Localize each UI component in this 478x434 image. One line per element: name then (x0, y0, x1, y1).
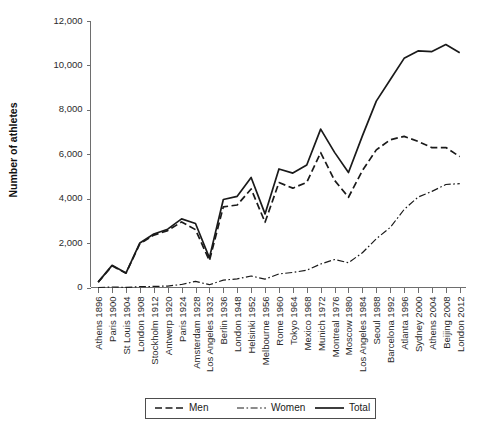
data-series-group (98, 45, 460, 288)
x-tick-label: Barcelona 1992 (385, 297, 396, 364)
x-tick-label: Seoul 1988 (371, 297, 382, 345)
legend-label-men: Men (189, 402, 208, 413)
x-tick-label: Montreal 1976 (330, 297, 341, 358)
legend-label-total: Total (349, 402, 370, 413)
x-tick-label: Sydney 2000 (413, 297, 424, 352)
x-axis-ticks: Athens 1896Paris 1900St Louis 1904London… (93, 288, 466, 373)
x-tick-label: Athens 1896 (93, 297, 104, 350)
x-tick-label: Los Angeles 1932 (204, 297, 215, 373)
y-axis-title-group: Number of athletes (7, 102, 19, 197)
y-tick-label: 8,000 (59, 103, 83, 114)
y-tick-label: 2,000 (59, 237, 83, 248)
series-line-men (98, 136, 460, 282)
x-tick-label: Paris 1924 (177, 297, 188, 342)
x-tick-label: London 1948 (232, 297, 243, 352)
y-tick-label: 4,000 (59, 192, 83, 203)
x-tick-label: London 2012 (455, 297, 466, 352)
x-tick-label: Rome 1960 (274, 297, 285, 346)
series-line-total (98, 45, 460, 283)
x-tick-label: Amsterdam 1928 (191, 297, 202, 369)
x-tick-label: Stockholm 1912 (149, 297, 160, 365)
olympic-athletes-chart: Number of athletes 02,0004,0006,0008,000… (0, 0, 478, 434)
x-tick-label: Athens 2004 (427, 297, 438, 350)
chart-svg: Number of athletes 02,0004,0006,0008,000… (0, 0, 478, 434)
x-tick-label: Moscow 1980 (343, 297, 354, 356)
y-tick-label: 10,000 (53, 59, 82, 70)
y-tick-label: 0 (77, 281, 82, 292)
y-axis-title: Number of athletes (7, 102, 19, 197)
x-tick-label: Antwerp 1920 (163, 297, 174, 356)
x-tick-label: Melbourne 1956 (260, 297, 271, 366)
chart-legend: MenWomenTotal (146, 399, 376, 419)
x-tick-label: Tokyo 1964 (288, 297, 299, 346)
x-tick-label: Munich 1972 (316, 297, 327, 351)
x-tick-label: St Louis 1904 (121, 297, 132, 355)
x-tick-label: Beijing 2008 (441, 297, 452, 349)
legend-label-women: Women (271, 402, 305, 413)
x-tick-label: Los Angeles 1984 (357, 297, 368, 373)
x-tick-label: Atlanta 1996 (399, 297, 410, 350)
x-tick-label: Berlin 1936 (218, 297, 229, 345)
x-tick-label: Paris 1900 (107, 297, 118, 342)
x-tick-label: Helsinki 1952 (246, 297, 257, 354)
x-tick-label: London 1908 (135, 297, 146, 352)
y-tick-label: 12,000 (53, 15, 82, 26)
y-tick-label: 6,000 (59, 148, 83, 159)
x-tick-label: Mexico 1968 (302, 297, 313, 351)
y-axis-ticks: 02,0004,0006,0008,00010,00012,000 (53, 15, 90, 293)
